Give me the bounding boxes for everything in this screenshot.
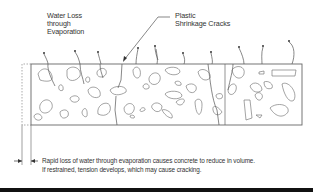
caption-line1: Rapid loss of water through evaporation … xyxy=(42,157,255,165)
caption-line2: If restrained, tension develops, which m… xyxy=(42,166,201,174)
bottom-rule xyxy=(0,188,313,192)
